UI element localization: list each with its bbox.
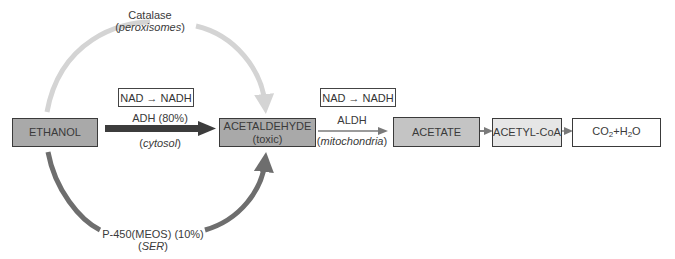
node-co2-h2o: CO2+H2O [572, 118, 661, 147]
p450-location: SER [142, 240, 165, 252]
cofactor-box-aldh: NAD → NADH [320, 88, 396, 107]
p450-arrow [48, 152, 265, 230]
node-co2-h2o-label: CO2+H2O [592, 125, 640, 141]
node-ethanol-label: ETHANOL [29, 126, 81, 139]
adh-arrow-head [198, 121, 216, 136]
catalase-location: peroxisomes [119, 21, 181, 33]
node-acetate: ACETATE [393, 117, 480, 147]
adh-enzyme-label: ADH (80%) [125, 112, 195, 124]
node-ethanol: ETHANOL [12, 118, 98, 147]
node-acetaldehyde: ACETALDEHYDE (toxic) [219, 118, 316, 147]
p450-label: P-450(MEOS) (10%) (SER) [98, 228, 208, 252]
adh-arrow-shaft [105, 125, 200, 132]
aldh-arrow-head [378, 127, 388, 135]
cofactor-box-adh: NAD → NADH [118, 88, 194, 107]
catalase-enzyme: Catalase [115, 9, 185, 21]
node-acetyl-coa-label: ACETYL-CoA [493, 126, 561, 139]
node-acetaldehyde-label: ACETALDEHYDE [224, 120, 312, 133]
node-acetate-label: ACETATE [412, 126, 461, 139]
p450-enzyme: P-450(MEOS) (10%) [98, 228, 208, 240]
catalase-label: Catalase (peroxisomes) [115, 9, 185, 33]
aldh-enzyme-label: ALDH [318, 114, 386, 126]
node-acetaldehyde-sublabel: (toxic) [253, 133, 283, 146]
adh-location-label: (cytosol) [125, 137, 195, 149]
aldh-location-label: (mitochondria) [314, 135, 390, 147]
node-acetyl-coa: ACETYL-CoA [492, 118, 562, 147]
